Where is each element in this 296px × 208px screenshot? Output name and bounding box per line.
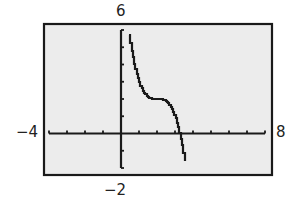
y-min-label: −2 (104, 183, 126, 198)
calculator-graph (0, 0, 296, 208)
y-max-label: 6 (116, 4, 126, 19)
x-min-label: −4 (16, 125, 38, 140)
x-max-label: 8 (276, 125, 286, 140)
